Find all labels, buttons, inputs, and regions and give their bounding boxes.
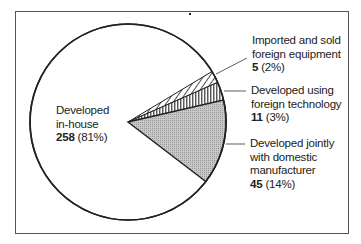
label-in-house: Developed in-house 258 (81%)	[56, 104, 109, 145]
label-imported: Imported and sold foreign equipment 5 (2…	[252, 34, 341, 75]
leader-imported	[216, 58, 247, 74]
label-jointly: Developed jointly with domestic manufact…	[250, 137, 334, 191]
label-foreign-tech: Developed using foreign technology 11 (3…	[251, 84, 341, 125]
